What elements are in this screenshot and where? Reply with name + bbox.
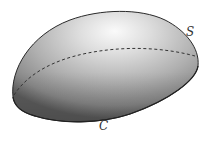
surface-label: S: [186, 26, 194, 38]
curve-label: C: [99, 120, 108, 132]
diagram-canvas: S C: [0, 0, 210, 141]
surface-shading: [13, 11, 198, 121]
